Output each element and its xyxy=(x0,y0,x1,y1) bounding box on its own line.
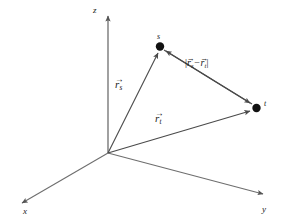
point-s-dot xyxy=(156,42,164,50)
vector-arrow-accent-rs: → xyxy=(115,75,120,79)
vector-arrow-accent-rt: → xyxy=(155,109,160,113)
coordinate-system-svg: s t z x y xyxy=(0,0,282,223)
point-label-s: s xyxy=(157,32,160,41)
x-axis-line xyxy=(22,153,108,203)
vector-r-t-line xyxy=(108,111,250,153)
labels-group: s t z x y xyxy=(22,5,267,216)
vector-arrow-accent-diff-1: → xyxy=(187,55,192,58)
axis-label-x: x xyxy=(22,206,27,216)
point-label-t: t xyxy=(264,99,267,108)
vector-label-r-t: →rt xyxy=(155,113,161,126)
vector-subscript-rs: s xyxy=(119,84,122,92)
vector-r-s-line xyxy=(108,53,158,153)
axis-label-y: y xyxy=(261,204,266,214)
vector-diagram-canvas: s t z x y →rs →rt |→rs−→rt| xyxy=(0,0,282,223)
y-axis-line xyxy=(108,153,263,194)
vector-arrow-accent-diff-2: → xyxy=(201,55,206,58)
vector-label-r-s-minus-r-t: |→rs−→rt| xyxy=(185,58,208,69)
minus-operator: − xyxy=(194,57,200,68)
point-t-dot xyxy=(252,104,260,112)
axes-group xyxy=(22,16,263,203)
axis-label-z: z xyxy=(92,5,97,15)
vector-subscript-rt: t xyxy=(159,118,161,126)
vector-label-r-s: →rs xyxy=(115,79,122,92)
vectors-group xyxy=(108,50,252,153)
